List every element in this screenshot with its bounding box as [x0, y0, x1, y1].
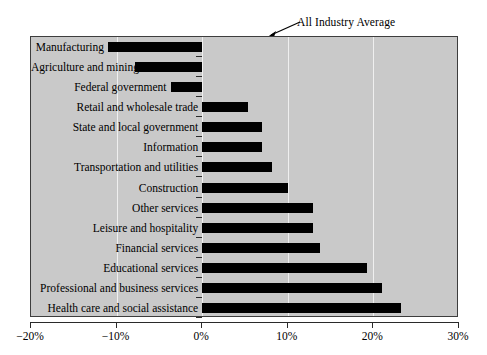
x-tick-label: 20%	[342, 330, 402, 342]
bar-label: Health care and social assistance	[31, 299, 202, 317]
bar-label: Leisure and hospitality	[31, 219, 202, 237]
bar-row: Retail and wholesale trade	[31, 97, 457, 117]
bar	[202, 183, 288, 193]
x-axis-line	[30, 322, 458, 323]
bar-label: Professional and business services	[31, 279, 202, 297]
bar-row: Educational services	[31, 258, 457, 278]
bar-label: Information	[31, 138, 202, 156]
bar	[108, 42, 202, 52]
bar-label: Federal government	[31, 78, 171, 96]
x-tick	[287, 322, 288, 328]
x-tick-label: 30%	[428, 330, 487, 342]
bar-row: Transportation and utilities	[31, 157, 457, 177]
x-tick-label: −20%	[0, 330, 60, 342]
x-tick-label: −10%	[86, 330, 146, 342]
bar-chart: All Industry Average ManufacturingAgricu…	[0, 0, 487, 355]
bar-row: Information	[31, 137, 457, 157]
bar	[202, 122, 262, 132]
x-tick	[201, 322, 202, 328]
x-tick	[372, 322, 373, 328]
bar-rows: ManufacturingAgriculture and miningFeder…	[31, 37, 457, 316]
bar-row: Leisure and hospitality	[31, 218, 457, 238]
bar	[202, 303, 401, 313]
bar-label: Agriculture and mining	[31, 58, 135, 76]
x-tick-label: 0%	[171, 330, 231, 342]
bar	[202, 283, 382, 293]
bar	[202, 243, 320, 253]
bar-label: Transportation and utilities	[31, 158, 202, 176]
x-tick-label: 10%	[257, 330, 317, 342]
bar	[202, 102, 247, 112]
bar-row: Agriculture and mining	[31, 57, 457, 77]
bar-row: Manufacturing	[31, 37, 457, 57]
bar-label: Construction	[31, 179, 202, 197]
bar-row: Federal government	[31, 77, 457, 97]
bar-row: Construction	[31, 178, 457, 198]
bar	[202, 203, 313, 213]
x-tick	[116, 322, 117, 328]
bar	[202, 223, 313, 233]
plot-area: ManufacturingAgriculture and miningFeder…	[30, 36, 458, 317]
bar-label: Educational services	[31, 259, 202, 277]
bar-label: State and local government	[31, 118, 202, 136]
x-tick	[30, 322, 31, 328]
bar-row: Health care and social assistance	[31, 298, 457, 318]
y-tick	[196, 317, 202, 318]
bar	[135, 62, 202, 72]
bar	[202, 142, 262, 152]
bar-label: Other services	[31, 199, 202, 217]
bar-row: Professional and business services	[31, 278, 457, 298]
bar-label: Financial services	[31, 239, 202, 257]
bar-label: Manufacturing	[31, 38, 108, 56]
bar	[171, 82, 203, 92]
bar-row: Other services	[31, 198, 457, 218]
bar	[202, 263, 366, 273]
bar-row: Financial services	[31, 238, 457, 258]
bar	[202, 162, 272, 172]
all-industry-average-annotation: All Industry Average	[297, 16, 395, 28]
bar-label: Retail and wholesale trade	[31, 98, 202, 116]
x-tick	[458, 322, 459, 328]
bar-row: State and local government	[31, 117, 457, 137]
